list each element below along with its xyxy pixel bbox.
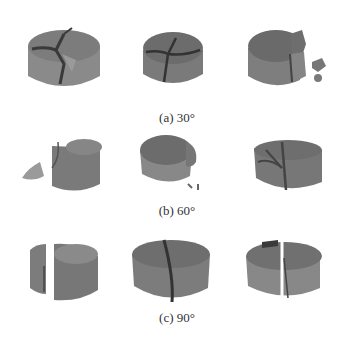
specimen-a3 <box>246 26 330 92</box>
caption-b: (b) 60° <box>0 203 354 219</box>
specimen-a2 <box>140 28 206 88</box>
figure: (a) 30° <box>0 0 354 345</box>
row-30-degrees <box>0 0 354 120</box>
specimen-b3 <box>252 138 326 194</box>
specimen-b2 <box>138 132 208 194</box>
caption-c: (c) 90° <box>0 310 354 326</box>
row-90-degrees <box>0 230 354 345</box>
specimen-a1 <box>24 24 104 94</box>
specimen-c1 <box>30 242 100 302</box>
specimen-c3 <box>244 238 324 304</box>
specimen-c2 <box>130 238 212 304</box>
specimen-b1 <box>20 138 106 194</box>
